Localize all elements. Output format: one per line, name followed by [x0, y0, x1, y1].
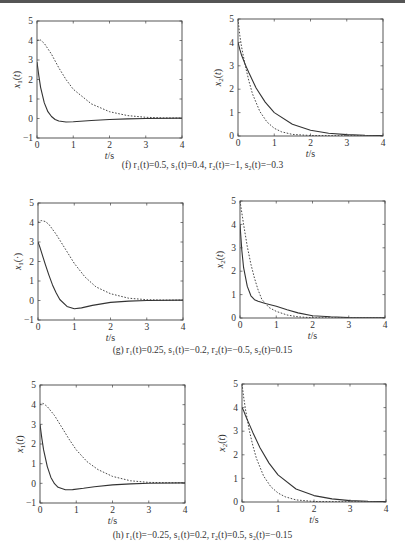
y-tick-label: 5 — [233, 379, 238, 389]
x-axis-label: t/s — [309, 514, 319, 525]
x-tick-label: 2 — [308, 138, 313, 148]
y-tick-label: 4 — [233, 403, 238, 413]
y-tick-label: 3 — [229, 61, 234, 71]
caption-h: (h) r₁(t)=−0.25, s₁(t)=0.2, r₂(t)=0.5, s… — [0, 530, 405, 540]
series-solid-line — [240, 224, 385, 317]
plot-frame — [238, 19, 383, 136]
caption-g: (g) r₁(t)=0.25, s₁(t)=−0.2, r₂(t)=−0.5, … — [0, 345, 405, 355]
x-axis-label: t/s — [306, 148, 316, 159]
y-tick-label: 5 — [29, 198, 34, 208]
series-solid-line — [38, 242, 183, 309]
x-tick-label: 0 — [240, 504, 245, 514]
y-tick-label: 5 — [31, 380, 36, 390]
x-tick-label: 2 — [312, 504, 317, 514]
x-tick-label: 0 — [38, 505, 43, 515]
series-dashed-line — [240, 201, 385, 318]
series-solid-line — [40, 424, 185, 490]
y-tick-label: 1 — [233, 474, 238, 484]
y-tick-label: 1 — [29, 276, 34, 286]
y-tick-label: 4 — [229, 38, 234, 48]
y-tick-label: 4 — [31, 400, 36, 410]
y-tick-label: −1 — [24, 315, 34, 325]
x-tick-label: 4 — [384, 504, 389, 514]
x-tick-label: 3 — [348, 504, 353, 514]
y-tick-label: 2 — [233, 450, 238, 460]
y-axis-label: x2(t) — [214, 251, 227, 269]
x-tick-label: 4 — [180, 140, 185, 150]
y-tick-label: 0 — [233, 497, 238, 507]
series-dashed-line — [40, 403, 185, 483]
y-tick-label: 0 — [31, 479, 36, 489]
x-tick-label: 1 — [72, 322, 77, 332]
y-tick-label: 3 — [31, 420, 36, 430]
y-tick-label: 1 — [31, 459, 36, 469]
x-tick-label: 2 — [110, 505, 115, 515]
y-axis-label: x2(t) — [212, 69, 225, 87]
y-axis-label: x1(·) — [12, 253, 25, 271]
chart-h-right: 01234012345t/sx2(t) — [216, 379, 389, 525]
y-tick-label: 2 — [29, 257, 34, 267]
chart-h-left: 01234−1012345t/sx1(t) — [14, 380, 188, 526]
x-tick-label: 1 — [74, 505, 79, 515]
chart-f-right: 01234012345t/sx2(t) — [212, 14, 386, 159]
x-axis-label: t/s — [106, 332, 116, 343]
series-dashed-line — [38, 221, 183, 301]
y-tick-label: 3 — [233, 426, 238, 436]
x-tick-label: 1 — [276, 504, 281, 514]
x-tick-label: 0 — [35, 140, 40, 150]
y-axis-label: x1(t) — [11, 71, 24, 89]
series-solid-line — [37, 62, 182, 122]
y-tick-label: 3 — [28, 55, 33, 65]
y-tick-label: 3 — [231, 243, 236, 253]
chart-f-left: 01234−1012345t/sx1(t) — [11, 16, 185, 161]
x-tick-label: 1 — [71, 140, 76, 150]
y-tick-label: −1 — [23, 133, 33, 143]
y-tick-label: 5 — [28, 16, 33, 26]
y-tick-label: 1 — [28, 94, 33, 104]
series-dashed-line — [37, 40, 182, 119]
chart-g-left: 01234−1012345t/sx1(·) — [12, 198, 186, 343]
y-tick-label: 2 — [231, 266, 236, 276]
x-tick-label: 1 — [274, 320, 279, 330]
plot-frame — [240, 201, 385, 318]
y-tick-label: 0 — [29, 296, 34, 306]
x-tick-label: 0 — [238, 320, 243, 330]
y-tick-label: 2 — [28, 75, 33, 85]
caption-f: (f) r₁(t)=0.5, s₁(t)=0.4, r₂(t)=−1, s₂(t… — [0, 160, 405, 170]
x-axis-label: t/s — [308, 330, 318, 341]
x-tick-label: 2 — [107, 140, 112, 150]
x-tick-label: 4 — [381, 138, 386, 148]
series-solid-line — [238, 42, 383, 135]
y-tick-label: −1 — [26, 498, 36, 508]
x-tick-label: 2 — [310, 320, 315, 330]
x-tick-label: 1 — [272, 138, 277, 148]
y-tick-label: 0 — [229, 131, 234, 141]
y-tick-label: 5 — [231, 196, 236, 206]
chart-g-right: 01234012345t/sx2(t) — [214, 196, 388, 341]
y-tick-label: 2 — [31, 439, 36, 449]
y-tick-label: 5 — [229, 14, 234, 24]
x-tick-label: 4 — [383, 320, 388, 330]
x-tick-label: 3 — [143, 140, 148, 150]
figure-panels: 01234−1012345t/sx1(t)01234012345t/sx2(t)… — [0, 0, 405, 557]
x-tick-label: 3 — [144, 322, 149, 332]
y-tick-label: 4 — [29, 218, 34, 228]
series-dashed-line — [238, 19, 383, 136]
x-axis-label: t/s — [108, 515, 118, 526]
y-tick-label: 2 — [229, 84, 234, 94]
y-tick-label: 0 — [231, 313, 236, 323]
x-tick-label: 4 — [181, 322, 186, 332]
series-solid-line — [242, 408, 386, 502]
series-dashed-line — [242, 384, 386, 502]
y-tick-label: 0 — [28, 114, 33, 124]
y-axis-label: x1(t) — [14, 435, 27, 453]
x-tick-label: 4 — [183, 505, 188, 515]
x-tick-label: 0 — [36, 322, 41, 332]
x-tick-label: 0 — [236, 138, 241, 148]
y-tick-label: 1 — [229, 108, 234, 118]
y-tick-label: 4 — [231, 220, 236, 230]
x-tick-label: 3 — [146, 505, 151, 515]
plot-frame — [242, 384, 386, 502]
x-tick-label: 3 — [344, 138, 349, 148]
y-tick-label: 3 — [29, 237, 34, 247]
